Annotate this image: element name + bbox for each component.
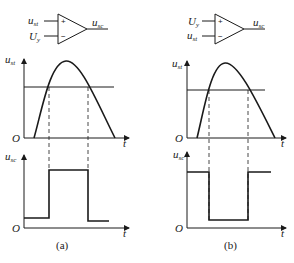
x-axis-label: t (281, 137, 285, 149)
plus-sign: + (218, 17, 223, 26)
input-plot-b: ust O t (172, 57, 286, 149)
output-label: usc (253, 16, 265, 30)
panel-a: + − ust Uy usc ust O t usc O t (a (5, 14, 129, 252)
caption-a: (a) (56, 239, 69, 252)
minus-sign: − (218, 32, 223, 41)
opamp-a: + − ust Uy usc (28, 14, 108, 44)
x-axis-label: t (123, 227, 127, 239)
output-square-wave (24, 170, 109, 221)
x-axis-label: t (281, 227, 285, 239)
minus-input-label: Uy (29, 30, 41, 44)
plus-input-label: Uy (188, 15, 200, 29)
x-axis-label: t (123, 137, 127, 149)
minus-sign: − (61, 32, 66, 41)
caption-b: (b) (224, 239, 237, 252)
y-axis-label: usc (5, 150, 17, 164)
y-axis-label: ust (172, 57, 183, 71)
output-plot-b: usc O t (173, 148, 286, 239)
origin-label: O (12, 132, 20, 144)
output-plot-a: usc O t (5, 150, 129, 239)
output-square-wave (187, 172, 271, 220)
plus-input-label: ust (28, 14, 39, 28)
input-plot-a: ust O t (5, 53, 129, 149)
origin-label: O (175, 222, 183, 234)
y-axis-label: usc (173, 148, 185, 162)
minus-input-label: ust (187, 29, 198, 43)
input-signal-curve (34, 61, 115, 138)
comparator-figure: + − ust Uy usc ust O t usc O t (a (0, 0, 294, 263)
panel-b: + − Uy ust usc ust O t usc O t (b) (172, 14, 286, 252)
y-axis-label: ust (5, 53, 16, 67)
output-label: usc (92, 16, 104, 30)
origin-label: O (175, 132, 183, 144)
opamp-b: + − Uy ust usc (187, 14, 265, 44)
plus-sign: + (61, 17, 66, 26)
origin-label: O (12, 222, 20, 234)
